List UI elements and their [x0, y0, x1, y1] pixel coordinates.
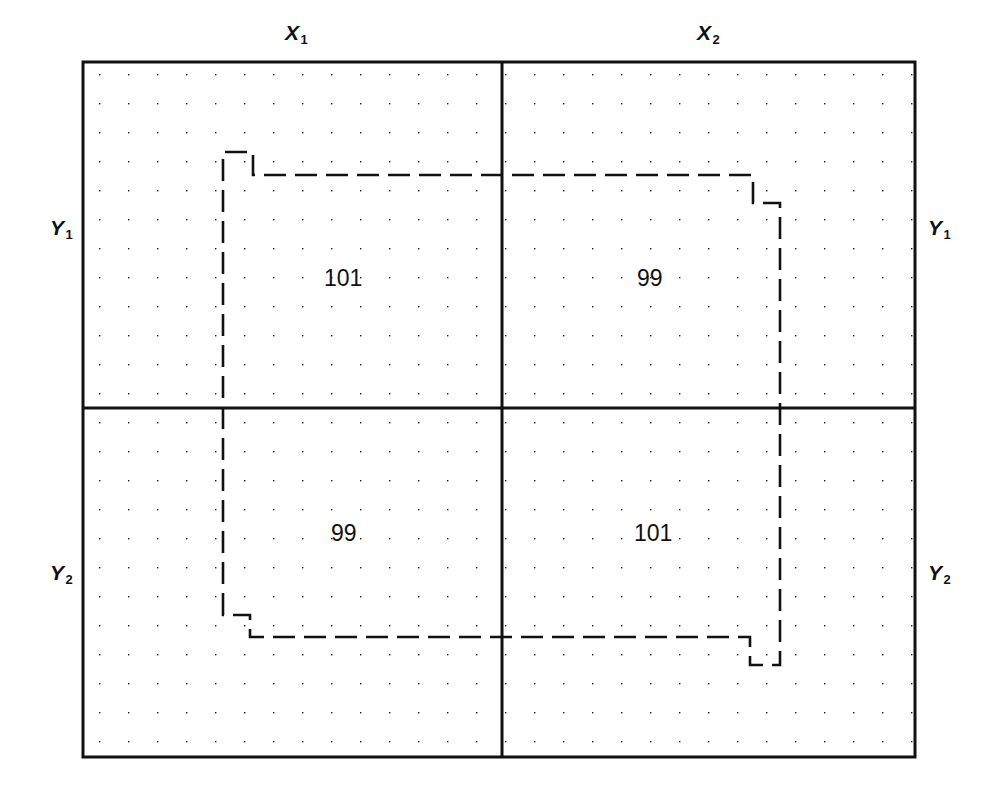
axis-label-y1-right-base: Y — [928, 216, 943, 239]
cell-value-y1-x2: 99 — [637, 267, 663, 290]
axis-label-x2: X2 — [697, 22, 719, 43]
cell-value-y1-x1: 101 — [324, 267, 362, 290]
axis-label-x1-subscript: 1 — [301, 32, 309, 47]
axis-label-y2-left-base: Y — [50, 561, 65, 584]
axis-label-y2-right-base: Y — [928, 561, 943, 584]
axis-label-y2-left-subscript: 2 — [66, 572, 74, 587]
field-plot-svg — [0, 0, 999, 808]
cell-value-y2-x2: 101 — [634, 522, 672, 545]
axis-label-y2-left: Y2 — [50, 562, 72, 583]
axis-label-y1-left-base: Y — [50, 216, 65, 239]
axis-label-y1-left: Y1 — [50, 217, 72, 238]
axis-label-y2-right-subscript: 2 — [944, 572, 952, 587]
axis-label-y1-left-subscript: 1 — [66, 227, 74, 242]
axis-label-y2-right: Y2 — [928, 562, 950, 583]
axis-label-y1-right-subscript: 1 — [944, 227, 952, 242]
axis-label-x1-base: X — [285, 21, 300, 44]
cell-value-y2-x1: 99 — [331, 522, 357, 545]
axis-label-x2-subscript: 2 — [713, 32, 721, 47]
axis-label-x1: X1 — [285, 22, 307, 43]
axis-label-y1-right: Y1 — [928, 217, 950, 238]
figure-canvas: X1 X2 Y1 Y2 Y1 Y2 101 99 99 101 — [0, 0, 999, 808]
axis-label-x2-base: X — [697, 21, 712, 44]
